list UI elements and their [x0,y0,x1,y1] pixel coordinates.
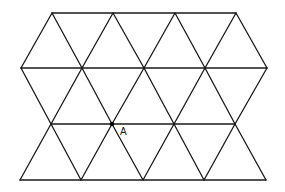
diagonal-line [51,68,82,124]
diagonal-line [52,13,82,68]
diagonal-line [21,68,51,124]
diagonal-line [144,68,174,124]
diagonal-line [204,124,235,180]
diagonal-line [144,13,175,68]
diagonal-line [82,68,112,124]
diagonal-line [174,124,204,180]
diagonal-line [21,13,52,68]
diagonal-line [51,124,81,180]
diagonal-line [20,124,51,180]
diagonal-line [112,68,144,124]
diagonal-line [174,68,205,124]
diagonal-line [205,68,235,124]
diagonal-line [205,13,236,68]
diagonal-line [81,124,112,180]
diagonal-line [236,13,267,68]
point-a-label: A [120,126,127,137]
diagonal-line [143,124,174,180]
grid-svg: A [0,0,285,192]
triangular-grid-diagram: A [0,0,285,192]
point-a-dot [110,122,114,126]
diagonal-line [235,124,266,180]
diagonal-line [113,13,144,68]
diagonal-line [82,13,113,68]
diagonal-line [235,68,267,124]
diagonal-line [112,124,143,180]
diagonal-line [175,13,205,68]
